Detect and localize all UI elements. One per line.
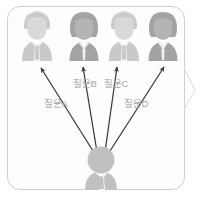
person-female-icon [149, 12, 178, 61]
person-female-icon [70, 12, 99, 61]
diagram-canvas: 질문A 질문B 질문C 질문D [0, 0, 204, 205]
diagram-graphics [0, 0, 204, 205]
person-male-icon [22, 11, 52, 62]
question-label-b: 질문B [73, 79, 96, 89]
question-label-d: 질문D [124, 99, 148, 109]
person-male-icon [109, 11, 139, 62]
question-label-c: 질문C [104, 79, 128, 89]
asker-person-icon [85, 147, 117, 191]
question-label-a: 질문A [44, 99, 67, 109]
